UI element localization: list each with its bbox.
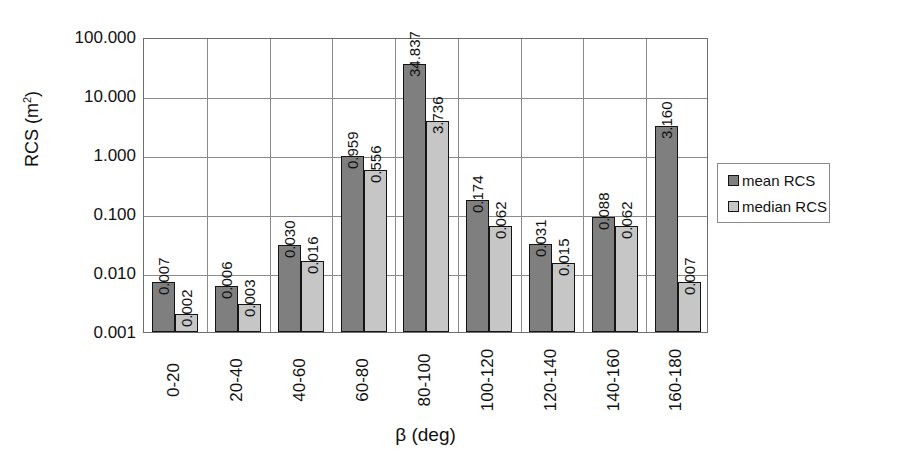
x-axis-tick-3: 60-80 bbox=[331, 336, 394, 426]
bar-value-label: 0.006 bbox=[219, 262, 234, 300]
bar-mean[interactable] bbox=[529, 244, 552, 332]
x-axis-tick-label: 0-20 bbox=[164, 363, 184, 397]
y-axis-tick-4: 0.010 bbox=[36, 264, 136, 284]
legend-label: mean RCS bbox=[742, 172, 815, 189]
bar-group: 0.0300.016 bbox=[270, 39, 333, 332]
legend-swatch-icon bbox=[728, 201, 739, 212]
x-axis-tick-label: 60-80 bbox=[353, 358, 373, 401]
bar-value-label: 0.015 bbox=[556, 238, 571, 276]
y-axis-tick-0: 100.000 bbox=[36, 28, 136, 48]
bar-group: 0.0880.062 bbox=[583, 39, 646, 332]
legend-item[interactable]: mean RCS bbox=[728, 172, 829, 189]
legend-swatch-icon bbox=[728, 175, 739, 186]
bar-value-label: 0.062 bbox=[619, 202, 634, 240]
bar-median[interactable] bbox=[364, 170, 387, 332]
bar-value-label: 0.174 bbox=[470, 175, 485, 213]
x-axis-tick-6: 120-140 bbox=[520, 336, 583, 426]
bar-mean[interactable] bbox=[592, 217, 615, 332]
rcs-bar-chart: RCS (m2) 100.00010.0001.0000.1000.0100.0… bbox=[0, 0, 908, 467]
x-axis-tick-label: 80-100 bbox=[415, 354, 435, 407]
bar-group: 3.1600.007 bbox=[646, 39, 709, 332]
bar-value-label: 0.002 bbox=[179, 290, 194, 328]
x-axis-tick-label: 140-160 bbox=[604, 349, 624, 411]
bar-group: 0.9590.556 bbox=[332, 39, 395, 332]
legend-label: median RCS bbox=[742, 198, 827, 215]
bar-mean[interactable] bbox=[403, 64, 426, 332]
x-axis-tick-4: 80-100 bbox=[394, 336, 457, 426]
x-axis-tick-label: 160-180 bbox=[667, 349, 687, 411]
x-axis-tick-5: 100-120 bbox=[457, 336, 520, 426]
bar-mean[interactable] bbox=[466, 200, 489, 332]
bar-mean[interactable] bbox=[341, 156, 364, 332]
x-axis-tick-7: 140-160 bbox=[582, 336, 645, 426]
bar-median[interactable] bbox=[615, 226, 638, 332]
bar-mean[interactable] bbox=[655, 126, 678, 332]
bar-value-label: 0.016 bbox=[305, 236, 320, 274]
bar-group: 0.0060.003 bbox=[207, 39, 270, 332]
bar-value-label: 3.736 bbox=[430, 97, 445, 135]
bar-median[interactable] bbox=[426, 121, 449, 332]
y-axis-tick-5: 0.001 bbox=[36, 323, 136, 343]
legend-item[interactable]: median RCS bbox=[728, 198, 829, 215]
x-axis-tick-label: 120-140 bbox=[541, 349, 561, 411]
bar-value-label: 0.031 bbox=[533, 219, 548, 257]
bar-group: 0.1740.062 bbox=[458, 39, 521, 332]
bar-group: 0.0310.015 bbox=[521, 39, 584, 332]
bar-group: 34.8373.736 bbox=[395, 39, 458, 332]
bar-value-label: 0.003 bbox=[242, 279, 257, 317]
x-axis-tick-label: 20-40 bbox=[227, 358, 247, 401]
bar-median[interactable] bbox=[489, 226, 512, 332]
y-axis-tick-2: 1.000 bbox=[36, 146, 136, 166]
bar-value-label: 0.007 bbox=[682, 258, 697, 296]
bar-value-label: 0.007 bbox=[156, 258, 171, 296]
bar-value-label: 34.837 bbox=[407, 31, 422, 77]
bar-value-label: 3.160 bbox=[659, 101, 674, 139]
y-axis-tick-labels: 100.00010.0001.0000.1000.0100.001 bbox=[24, 38, 136, 333]
bar-value-label: 0.088 bbox=[596, 193, 611, 231]
x-axis-tick-label: 100-120 bbox=[478, 349, 498, 411]
bar-value-label: 0.030 bbox=[282, 220, 297, 258]
chart-legend: mean RCSmedian RCS bbox=[717, 163, 830, 223]
y-axis-tick-1: 10.000 bbox=[36, 87, 136, 107]
y-axis-tick-3: 0.100 bbox=[36, 205, 136, 225]
bar-value-label: 0.556 bbox=[368, 145, 383, 183]
bar-value-label: 0.959 bbox=[345, 132, 360, 170]
bar-group: 0.0070.002 bbox=[144, 39, 207, 332]
x-axis-tick-label: 40-60 bbox=[290, 358, 310, 401]
bar-value-label: 0.062 bbox=[493, 202, 508, 240]
x-axis-tick-2: 40-60 bbox=[269, 336, 332, 426]
x-axis-tick-8: 160-180 bbox=[645, 336, 708, 426]
x-axis-tick-0: 0-20 bbox=[143, 336, 206, 426]
x-axis-tick-labels: 0-2020-4040-6060-8080-100100-120120-1401… bbox=[143, 336, 708, 428]
x-axis-title: β (deg) bbox=[143, 424, 708, 446]
plot-area: 0.0070.0020.0060.0030.0300.0160.9590.556… bbox=[143, 38, 708, 333]
x-axis-tick-1: 20-40 bbox=[206, 336, 269, 426]
